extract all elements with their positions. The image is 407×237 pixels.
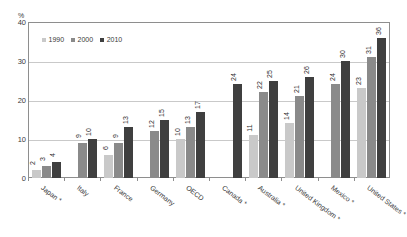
bar-value-label: 25 [266,70,273,78]
bar[interactable]: 17 [196,112,205,178]
bar-value-label: 11 [246,124,253,131]
bar-group: 2430 [318,22,354,178]
bar[interactable]: 9 [114,143,123,178]
bar-value-label: 22 [256,81,263,89]
legend-label: 2000 [78,36,94,43]
x-axis-category: Australia * [245,178,281,237]
x-axis-category: Canada * [209,178,245,237]
bar-group: 112225 [245,22,281,178]
bar-slot: 10 [176,22,185,178]
bar-slot: 30 [341,22,350,178]
bar[interactable]: 6 [104,155,113,178]
legend-swatch-icon [71,38,75,42]
legend-swatch-icon [42,38,46,42]
bar-slot [213,22,222,178]
x-axis-tickmark [100,178,101,181]
x-axis-category: Germany [137,178,173,237]
bar[interactable]: 9 [78,143,87,178]
y-axis-tick-label: 20 [8,96,26,105]
bar[interactable]: 26 [305,77,314,178]
bar[interactable]: 22 [259,92,268,178]
bar-value-label: 26 [303,66,310,74]
bar-value-label: 4 [49,153,56,157]
bar[interactable]: 13 [186,127,195,178]
legend-item-2010[interactable]: 2010 [100,36,122,43]
bar[interactable]: 24 [331,84,340,178]
bar[interactable]: 10 [88,139,97,178]
bar-slot: 36 [377,22,386,178]
x-axis-tickmark [245,178,246,181]
bar[interactable]: 10 [176,139,185,178]
bar-group: 24 [209,22,245,178]
bar-group: 101317 [173,22,209,178]
bar-value-label: 9 [112,134,119,138]
bar-value-label: 31 [365,46,372,54]
x-axis-category-label: France [112,184,134,203]
bar-slot: 4 [52,22,61,178]
bar-slot: 25 [269,22,278,178]
bar-slot: 31 [367,22,376,178]
y-axis-tick-label: 40 [8,18,26,27]
legend-item-1990[interactable]: 1990 [42,36,64,43]
x-axis-categories: Japan *ItalyFranceGermanyOECDCanada *Aus… [28,178,390,237]
bar-value-label: 3 [39,157,46,161]
y-axis: 010203040 [4,0,26,237]
x-axis-tickmark [64,178,65,181]
bar-slot: 26 [305,22,314,178]
bar-value-label: 12 [148,120,155,128]
bar[interactable]: 3 [42,166,51,178]
x-axis-tickmark [137,178,138,181]
x-axis-category-label: Italy [76,184,90,197]
x-axis-tickmark [281,178,282,181]
bar-value-label: 10 [85,128,92,136]
bar-slot: 13 [124,22,133,178]
bar-slot [140,22,149,178]
bar-slot: 24 [331,22,340,178]
bar-slot [68,22,77,178]
bar-slot: 2 [32,22,41,178]
legend-item-2000[interactable]: 2000 [71,36,93,43]
bar-group: 1215 [137,22,173,178]
bar-slot: 10 [88,22,97,178]
x-axis-category: Italy [64,178,100,237]
bar[interactable]: 24 [233,84,242,178]
y-axis-tick-label: 30 [8,57,26,66]
bar[interactable]: 31 [367,57,376,178]
bar[interactable]: 13 [124,127,133,178]
bar-value-label: 36 [375,27,382,35]
bar-slot: 9 [78,22,87,178]
bar[interactable]: 25 [269,81,278,179]
bar[interactable]: 23 [357,88,366,178]
bar-value-label: 15 [158,109,165,117]
bar-slot: 12 [150,22,159,178]
bar[interactable]: 36 [377,38,386,178]
bar[interactable]: 14 [285,123,294,178]
bar[interactable]: 2 [32,170,41,178]
x-axis-tickmark [354,178,355,181]
bar-value-label: 23 [355,77,362,85]
bar-value-label: 14 [283,113,290,121]
bar-value-label: 2 [29,161,36,165]
x-axis-category: OECD [173,178,209,237]
x-axis-category-label: Japan * [40,184,63,204]
bar-slot: 22 [259,22,268,178]
bar-slot: 14 [285,22,294,178]
bar[interactable]: 15 [160,120,169,179]
bar-slot: 24 [233,22,242,178]
x-axis-category: United States * [354,178,390,237]
bar[interactable]: 4 [52,162,61,178]
bar-slot: 11 [249,22,258,178]
y-axis-tick-label: 0 [8,174,26,183]
legend-label: 2010 [107,36,123,43]
bar-value-label: 30 [339,50,346,58]
legend: 199020002010 [42,36,122,43]
bar[interactable]: 21 [295,96,304,178]
bar[interactable]: 30 [341,61,350,178]
bar-slot: 21 [295,22,304,178]
bar[interactable]: 11 [249,135,258,178]
x-axis-tickmark [209,178,210,181]
bar-value-label: 13 [122,116,129,124]
bar-value-label: 24 [329,74,336,82]
bar[interactable]: 12 [150,131,159,178]
